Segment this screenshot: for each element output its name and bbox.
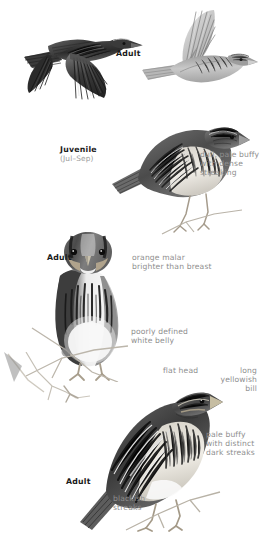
juvenile-label: Juvenile [60, 145, 97, 154]
annotation-pale-buffy: pale buffy with distinct dark streaks [206, 430, 255, 458]
annotation-flat-head: flat head [163, 366, 198, 375]
juvenile-season-label: (Jul–Sep) [60, 154, 97, 163]
annotation-juvenile-plumage: dull, pale buffy with dense streaking [200, 150, 259, 178]
adult-frontal-label: Adult [47, 253, 72, 262]
field-guide-plate: Adult [0, 0, 263, 534]
juvenile-label-group: Juvenile (Jul–Sep) [60, 145, 97, 163]
adult-in-flight-underside-illustration [140, 4, 258, 100]
annotation-orange-malar: orange malar brighter than breast [132, 253, 212, 271]
annotation-blackish-streaks: blackish streaks [113, 494, 145, 512]
annotation-long-bill: long yellowish bill [195, 366, 257, 394]
adult-side-perched-illustration [78, 372, 223, 532]
adult-flight-label: Adult [116, 49, 141, 58]
perch-twig-fragment [4, 352, 109, 414]
annotation-white-belly: poorly defined white belly [131, 327, 188, 345]
adult-side-label: Adult [66, 477, 91, 486]
